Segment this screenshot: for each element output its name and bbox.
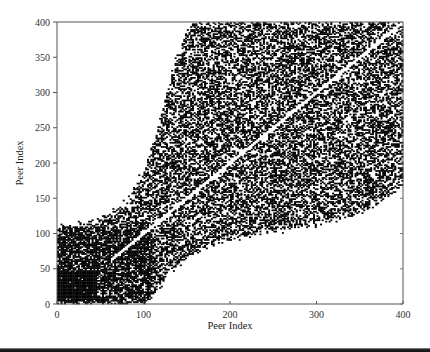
scatter-point <box>265 212 267 214</box>
scatter-point <box>244 47 246 49</box>
scatter-point <box>195 214 197 216</box>
scatter-point <box>192 101 194 103</box>
scatter-point <box>118 208 120 210</box>
scatter-point <box>192 231 194 233</box>
scatter-point <box>81 280 83 282</box>
scatter-point <box>225 64 227 66</box>
scatter-point <box>99 246 101 248</box>
scatter-point <box>185 138 187 140</box>
scatter-point <box>296 164 298 166</box>
scatter-point <box>325 157 327 159</box>
scatter-point <box>185 69 187 71</box>
scatter-point <box>111 232 113 234</box>
scatter-point <box>249 153 251 155</box>
scatter-point <box>221 234 223 236</box>
scatter-point <box>150 290 152 292</box>
scatter-point <box>166 241 168 243</box>
scatter-point <box>180 160 182 162</box>
scatter-point <box>225 156 227 158</box>
scatter-point <box>313 76 315 78</box>
scatter-point <box>301 197 303 199</box>
scatter-point <box>163 174 165 176</box>
scatter-point <box>209 87 211 89</box>
scatter-point <box>365 129 367 131</box>
scatter-point <box>289 45 291 47</box>
scatter-point <box>197 26 199 28</box>
scatter-point <box>318 115 320 117</box>
scatter-point <box>157 190 159 192</box>
scatter-point <box>292 85 294 87</box>
scatter-point <box>387 53 389 55</box>
y-tick-label: 350 <box>35 52 50 63</box>
scatter-point <box>265 194 267 196</box>
scatter-point <box>173 148 175 150</box>
scatter-point <box>360 76 362 78</box>
scatter-point <box>227 231 229 233</box>
scatter-point <box>244 217 246 219</box>
scatter-point <box>398 39 400 41</box>
scatter-point <box>365 173 367 175</box>
scatter-point <box>242 228 244 230</box>
scatter-point <box>379 45 381 47</box>
scatter-point <box>356 138 358 140</box>
scatter-point <box>194 49 196 51</box>
scatter-point <box>261 78 263 80</box>
scatter-point <box>187 104 189 106</box>
scatter-point <box>330 114 332 116</box>
scatter-point <box>81 258 83 260</box>
scatter-point <box>382 121 384 123</box>
scatter-point <box>344 170 346 172</box>
scatter-point <box>394 155 396 157</box>
scatter-point <box>272 228 274 230</box>
scatter-point <box>358 190 360 192</box>
scatter-point <box>154 243 156 245</box>
scatter-point <box>272 122 274 124</box>
scatter-point <box>325 156 327 158</box>
scatter-point <box>59 269 61 271</box>
scatter-point <box>394 35 396 37</box>
scatter-point <box>107 228 109 230</box>
scatter-point <box>227 108 229 110</box>
scatter-point <box>197 252 199 254</box>
scatter-point <box>394 53 396 55</box>
scatter-point <box>360 119 362 121</box>
scatter-point <box>88 298 90 300</box>
scatter-point <box>351 143 353 145</box>
scatter-point <box>382 81 384 83</box>
scatter-point <box>370 156 372 158</box>
scatter-point <box>284 59 286 61</box>
scatter-point <box>268 90 270 92</box>
scatter-point <box>394 101 396 103</box>
scatter-point <box>237 200 239 202</box>
scatter-point <box>275 87 277 89</box>
scatter-point <box>284 128 286 130</box>
scatter-point <box>315 224 317 226</box>
scatter-point <box>289 117 291 119</box>
scatter-point <box>123 252 125 254</box>
scatter-point <box>261 38 263 40</box>
scatter-point <box>384 138 386 140</box>
scatter-point <box>360 179 362 181</box>
scatter-point <box>64 283 66 285</box>
scatter-point <box>145 265 147 267</box>
scatter-point <box>353 186 355 188</box>
scatter-point <box>192 153 194 155</box>
x-tick-label: 300 <box>309 309 324 320</box>
scatter-point <box>169 166 171 168</box>
scatter-point <box>175 265 177 267</box>
scatter-point <box>133 200 135 202</box>
scatter-point <box>313 97 315 99</box>
scatter-point <box>209 25 211 27</box>
scatter-point <box>197 62 199 64</box>
scatter-point <box>157 214 159 216</box>
scatter-point <box>261 162 263 164</box>
scatter-point <box>232 231 234 233</box>
scatter-point <box>128 279 130 281</box>
scatter-point <box>185 228 187 230</box>
scatter-point <box>348 104 350 106</box>
scatter-point <box>185 184 187 186</box>
scatter-point <box>244 102 246 104</box>
scatter-point <box>209 100 211 102</box>
scatter-point <box>204 91 206 93</box>
scatter-point <box>268 111 270 113</box>
